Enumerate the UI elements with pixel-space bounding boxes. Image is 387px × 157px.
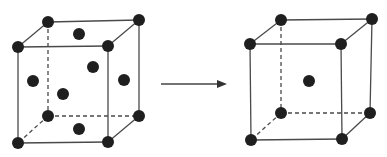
- cube-edge: [251, 139, 342, 140]
- corner-atom: [102, 136, 114, 148]
- cube-edge: [341, 44, 342, 139]
- cube-edge: [281, 19, 372, 20]
- corner-atom: [42, 110, 54, 122]
- corner-atom: [244, 38, 256, 50]
- face-center-atom: [73, 123, 85, 135]
- diagram-canvas: [0, 0, 387, 157]
- cube-edge: [108, 20, 139, 46]
- body-center-atom: [303, 75, 315, 87]
- bcc-unit-cell: [244, 13, 378, 146]
- face-center-atom: [57, 88, 69, 100]
- corner-atom: [133, 14, 145, 26]
- cube-edge: [250, 44, 251, 140]
- corner-atom: [275, 14, 287, 26]
- corner-atom: [335, 38, 347, 50]
- corner-atom: [102, 40, 114, 52]
- hidden-cube-edge: [18, 116, 48, 143]
- corner-atom: [12, 137, 24, 149]
- cube-edge: [18, 46, 108, 47]
- face-center-atom: [27, 75, 39, 87]
- hidden-cube-edge: [251, 113, 281, 140]
- corner-atom: [366, 13, 378, 25]
- face-center-atom: [118, 74, 130, 86]
- corner-atom: [364, 107, 376, 119]
- face-center-atom: [73, 28, 85, 40]
- fcc-unit-cell: [12, 14, 145, 149]
- corner-atom: [275, 107, 287, 119]
- face-center-atom: [87, 61, 99, 73]
- crystal-structure-diagram: [0, 0, 387, 157]
- corner-atom: [42, 16, 54, 28]
- corner-atom: [245, 134, 257, 146]
- transformation-arrow-icon: [161, 80, 227, 88]
- corner-atom: [336, 133, 348, 145]
- arrow-head-icon: [217, 80, 227, 88]
- cube-edge: [18, 142, 108, 143]
- cube-edge: [108, 116, 139, 142]
- corner-atom: [133, 110, 145, 122]
- cube-edge: [370, 19, 372, 113]
- corner-atom: [12, 41, 24, 53]
- cube-edge: [48, 20, 139, 22]
